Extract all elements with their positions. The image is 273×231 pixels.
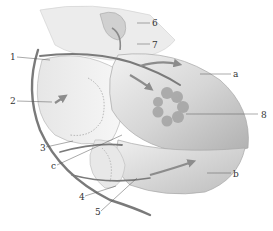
label-7: 7: [152, 41, 158, 50]
label-3: 3: [40, 144, 46, 153]
upper-structure: [40, 6, 175, 60]
label-c: c: [51, 162, 56, 171]
label-1: 1: [10, 53, 16, 62]
label-8: 8: [261, 111, 267, 120]
label-b: b: [233, 170, 239, 179]
anatomical-diagram: [0, 0, 273, 231]
label-5: 5: [95, 208, 101, 217]
left-lobe: [37, 56, 123, 144]
label-a: a: [233, 70, 238, 79]
label-6: 6: [152, 19, 158, 28]
label-4: 4: [79, 193, 85, 202]
label-2: 2: [10, 97, 16, 106]
